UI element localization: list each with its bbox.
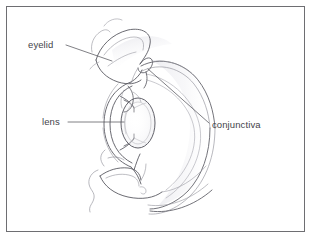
lens-shape xyxy=(121,98,155,148)
label-eyelid: eyelid xyxy=(28,39,53,50)
figure-root: eyelid lens conjunctiva xyxy=(0,0,313,240)
label-lens: lens xyxy=(42,116,60,127)
leader-eyelid xyxy=(66,45,112,61)
label-conjunctiva: conjunctiva xyxy=(212,119,261,130)
